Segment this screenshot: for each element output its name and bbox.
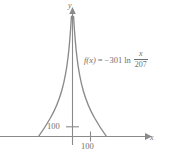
formula-lhs: f(x) bbox=[84, 55, 96, 65]
y-axis-label: y bbox=[68, 2, 72, 10]
formula-equals: = bbox=[98, 55, 103, 65]
function-formula: f(x) = −301 ln x 207 bbox=[84, 50, 148, 69]
curve-left-branch bbox=[39, 17, 72, 136]
formula-coefficient: −301 bbox=[105, 55, 123, 65]
formula-numerator: x bbox=[137, 50, 145, 58]
curve-right-branch bbox=[74, 17, 107, 136]
formula-ln-operator: ln bbox=[124, 55, 131, 65]
x-tick-label-100: 100 bbox=[81, 142, 94, 151]
x-axis-label: x bbox=[150, 134, 154, 142]
y-tick-label-100: 100 bbox=[47, 122, 60, 131]
formula-denominator: 207 bbox=[134, 61, 148, 69]
figure-container: y x 100 100 f(x) = −301 ln x 207 bbox=[0, 0, 169, 167]
formula-fraction: x 207 bbox=[134, 50, 148, 69]
